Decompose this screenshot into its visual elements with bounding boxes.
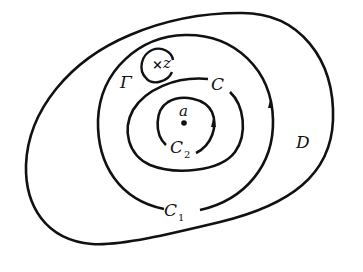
label-region-d: D: [296, 134, 310, 151]
label-c2: C2: [170, 139, 190, 156]
label-c2-main: C: [170, 137, 183, 157]
label-c1: C1: [164, 202, 184, 219]
label-point-z: z: [163, 56, 171, 71]
label-c2-subscript: 2: [184, 149, 190, 160]
label-c: C: [211, 76, 224, 93]
point-a-dot: [181, 120, 187, 126]
label-c1-subscript: 1: [178, 212, 184, 223]
label-gamma: Γ: [120, 74, 132, 91]
label-c1-main: C: [164, 200, 177, 220]
contour-diagram: D C1 C C2 Γ a × z: [0, 0, 363, 272]
label-point-a: a: [179, 104, 188, 119]
point-z-cross-icon: ×: [152, 58, 163, 71]
